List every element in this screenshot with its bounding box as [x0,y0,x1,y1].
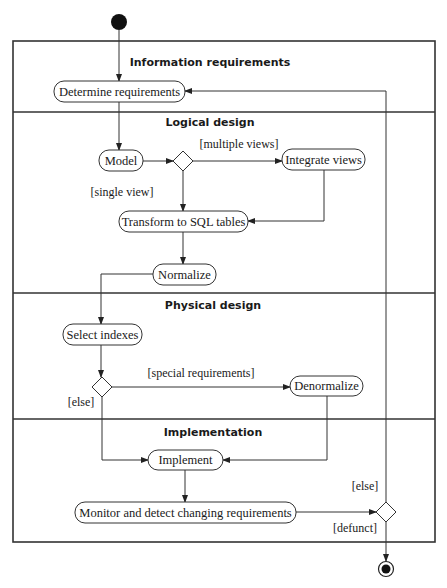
activity-label: Transform to SQL tables [122,215,246,229]
guard-multiple-views: [multiple views] [200,137,279,151]
guard-special-requirements: [special requirements] [148,366,255,380]
decision-node-views-icon [173,151,193,171]
activity-label: Monitor and detect changing requirements [79,506,292,520]
guard-else-loop: [else] [352,479,379,493]
lane-title-physical-design: Physical design [165,299,261,312]
final-node-icon [379,562,394,577]
activity-label: Integrate views [285,153,362,167]
decision-node-loop-icon [376,502,396,522]
flow-edge [102,397,148,460]
flow-edge [101,274,153,324]
guard-single-view: [single view] [91,185,154,199]
activity-label: Select indexes [67,328,139,342]
activity-label: Implement [158,453,213,467]
activity-diagram: Information requirements Logical design … [0,0,447,588]
activity-label: Normalize [158,268,211,282]
lane-title-implementation: Implementation [164,426,263,439]
activity-label: Determine requirements [59,85,180,99]
guard-defunct: [defunct] [333,521,377,535]
guard-else-physical: [else] [68,395,95,409]
lane-title-information-requirements: Information requirements [130,56,291,69]
initial-node-icon [111,14,127,30]
activity-label: Denormalize [294,379,359,393]
lane-title-logical-design: Logical design [165,116,254,129]
activity-label: Model [105,154,138,168]
flow-edge [248,170,324,221]
decision-node-physical-icon [92,377,112,397]
